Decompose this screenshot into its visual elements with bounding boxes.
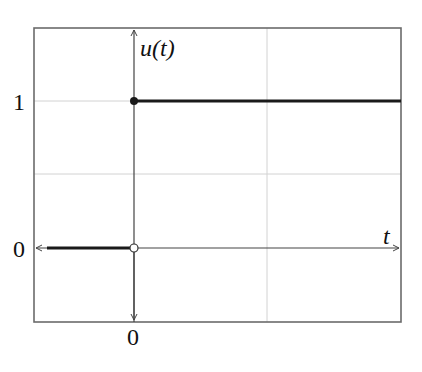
x-tick-label-0: 0 xyxy=(127,324,139,350)
y-tick-label-0: 0 xyxy=(13,236,25,262)
grid-lines xyxy=(34,28,401,322)
plot-frame xyxy=(34,28,401,322)
y-axis-label: u(t) xyxy=(140,35,175,61)
y-tick-label-1: 1 xyxy=(13,89,25,115)
closed-endpoint-marker xyxy=(130,97,138,105)
x-axis-label: t xyxy=(383,223,391,249)
step-function-chart: u(t) t 1 0 0 xyxy=(0,0,422,372)
open-endpoint-marker xyxy=(130,244,138,252)
